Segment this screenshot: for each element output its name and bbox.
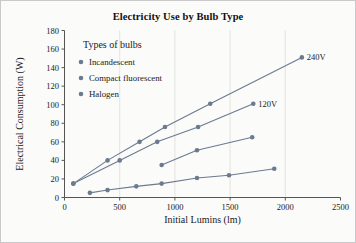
- y-axis-tick-label: 80: [51, 118, 60, 128]
- series-annotation-label: 120V: [258, 99, 278, 109]
- data-point-marker: [208, 101, 213, 106]
- data-point-marker: [251, 101, 256, 106]
- legend-marker-1: [79, 60, 84, 65]
- chart-figure: Electricity Use by Bulb Type 02040608010…: [0, 0, 356, 243]
- legend-marker-3: [79, 92, 84, 97]
- x-axis-tick-label: 1500: [222, 202, 239, 212]
- x-axis-title: Initial Lumins (lm): [164, 214, 241, 226]
- y-axis-tick-label: 140: [46, 63, 59, 73]
- legend-label-1: Incandescent: [89, 57, 135, 67]
- y-axis-tick-label: 20: [51, 174, 60, 184]
- legend-title: Types of bulbs: [83, 39, 142, 50]
- y-axis-title: Electrical Consumption (W): [14, 57, 26, 170]
- y-axis-tick-label: 60: [51, 137, 60, 147]
- data-point-marker: [227, 173, 232, 178]
- data-point-marker: [159, 181, 164, 186]
- y-axis-tick-label: 160: [46, 44, 59, 54]
- data-point-marker: [196, 125, 201, 130]
- x-axis-tick-label: 500: [113, 202, 126, 212]
- y-axis-tick-label: 100: [46, 100, 59, 110]
- data-point-marker: [195, 148, 200, 153]
- y-axis-tick-label: 180: [46, 26, 59, 36]
- chart-plot-area: 0204060801001201401601800500100015002000…: [1, 1, 356, 243]
- x-axis-tick-label: 2000: [277, 202, 294, 212]
- data-point-marker: [117, 158, 122, 163]
- x-axis-tick-label: 2500: [332, 202, 349, 212]
- data-point-marker: [195, 176, 200, 181]
- legend-marker-2: [79, 76, 84, 81]
- data-point-marker: [137, 140, 142, 145]
- x-axis-tick-label: 0: [62, 202, 66, 212]
- data-point-marker: [250, 135, 255, 140]
- legend-label-3: Halogen: [89, 89, 119, 99]
- data-point-marker: [300, 55, 305, 60]
- data-point-marker: [163, 125, 168, 130]
- legend-label-2: Compact fluorescent: [89, 73, 163, 83]
- x-axis-tick-label: 1000: [166, 202, 183, 212]
- data-point-marker: [105, 188, 110, 193]
- data-point-marker: [71, 181, 76, 186]
- data-point-marker: [159, 163, 164, 168]
- data-point-marker: [155, 140, 160, 145]
- data-point-marker: [105, 158, 110, 163]
- data-point-marker: [272, 166, 277, 171]
- data-point-marker: [134, 184, 139, 189]
- series-annotation-label: 240V: [307, 52, 327, 62]
- data-point-marker: [88, 191, 93, 196]
- y-axis-tick-label: 120: [46, 81, 59, 91]
- series-line: [90, 169, 274, 193]
- y-axis-tick-label: 0: [55, 193, 59, 203]
- y-axis-tick-label: 40: [51, 155, 60, 165]
